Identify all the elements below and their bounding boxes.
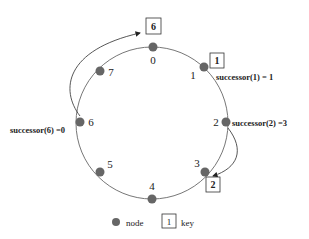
chord-ring-diagram: 01234567 612 successor(1) = 1successor(2…: [0, 0, 309, 239]
node-7: [96, 67, 105, 76]
annotations-layer: successor(1) = 1successor(2) =3successor…: [10, 72, 287, 135]
node-1: [200, 63, 209, 72]
key-label-1: 1: [215, 55, 220, 66]
node-label-7: 7: [108, 66, 114, 78]
node-label-6: 6: [88, 116, 94, 128]
node-3: [201, 168, 210, 177]
node-4: [148, 195, 157, 204]
key-label-2: 2: [211, 179, 216, 190]
legend: node 1 key: [112, 214, 194, 228]
node-label-0: 0: [150, 54, 156, 66]
legend-node-icon: [112, 218, 120, 226]
node-label-5: 5: [107, 158, 113, 170]
keys-layer: 612: [146, 18, 224, 192]
key-label-6: 6: [151, 21, 156, 32]
node-label-4: 4: [149, 180, 155, 192]
node-6: [76, 118, 85, 127]
successor-annotation: successor(6) =0: [10, 125, 65, 135]
successor-annotation: successor(1) = 1: [216, 72, 273, 82]
legend-node-label: node: [126, 218, 144, 228]
node-5: [96, 168, 105, 177]
node-2: [222, 118, 231, 127]
node-label-2: 2: [213, 116, 219, 128]
successor-annotation: successor(2) =3: [232, 118, 287, 128]
node-label-3: 3: [194, 157, 200, 169]
node-0: [149, 43, 158, 52]
successor-6-arrow: [70, 33, 140, 116]
legend-key-sample: 1: [167, 217, 172, 227]
node-label-1: 1: [190, 69, 196, 81]
successor-2-arrow: [213, 128, 237, 176]
legend-key-label: key: [181, 218, 194, 228]
